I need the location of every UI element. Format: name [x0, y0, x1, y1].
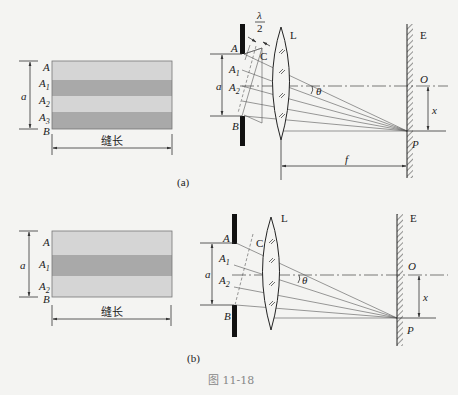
offset-label-x: x	[422, 291, 428, 303]
screen-label: E	[410, 212, 417, 224]
offset-label-x: x	[431, 104, 437, 116]
panel-a-slit-face: a A A1 A2 A3 B 缝长	[19, 61, 172, 155]
center-label-o: O	[408, 260, 416, 272]
zone-a-a1	[52, 231, 172, 255]
zone-a2-a3	[52, 96, 172, 112]
slit-barrier-top	[240, 24, 245, 54]
panel-b-optical-setup: a A A1 A2 B C L θ E O P x	[187, 212, 448, 365]
screen-e	[407, 24, 413, 178]
panel-a-label: (a)	[177, 176, 190, 189]
lens-l	[263, 217, 280, 330]
slit-barrier-bottom	[232, 305, 237, 337]
figure-caption: 图 11-18	[208, 374, 254, 387]
slit-width-label: a	[20, 259, 26, 271]
angle-theta: θ	[302, 274, 308, 286]
zone-label-a3: A3	[38, 111, 50, 126]
diagram-canvas: a A A1 A2 A3 B 缝长 a A A1 A2 B λ 2	[0, 0, 458, 395]
zone-a3-b	[52, 112, 172, 129]
zone-a2-b	[52, 276, 172, 297]
focal-length-label: f	[345, 153, 350, 165]
point-a1: A1	[218, 252, 230, 267]
point-b: B	[224, 310, 231, 322]
wavefront-label-c: C	[260, 50, 267, 62]
slit-barrier-bottom	[240, 116, 245, 146]
panel-a-optical-setup: a A A1 A2 B λ 2 C	[177, 9, 448, 189]
point-a1: A1	[228, 63, 240, 78]
panel-b-slit-face: a A A1 A2 B 缝长	[19, 231, 172, 326]
zone-label-a1: A1	[38, 258, 50, 273]
point-a: A	[230, 42, 238, 54]
point-a: A	[222, 232, 230, 244]
screen-label: E	[420, 29, 427, 41]
zone-a1-a2	[52, 255, 172, 276]
slit-length-label: 缝长	[101, 305, 123, 319]
zone-a-a1	[52, 61, 172, 80]
slit-width-label: a	[216, 80, 222, 92]
zone-a1-a2	[52, 80, 172, 96]
slit-width-label: a	[21, 90, 27, 102]
point-label-p: P	[406, 324, 414, 336]
slit-length-label: 缝长	[101, 134, 123, 148]
edge-label-b: B	[43, 125, 50, 137]
slit-barrier-top	[232, 214, 237, 244]
lens-l	[273, 27, 290, 140]
point-b: B	[232, 120, 239, 132]
point-a2: A2	[228, 81, 240, 96]
half-wavelength-denominator: 2	[257, 22, 263, 34]
half-wavelength-numerator: λ	[256, 9, 262, 21]
lens-label: L	[281, 212, 288, 224]
slit-width-label: a	[205, 268, 211, 280]
zone-label-a2: A2	[38, 94, 50, 109]
edge-label-a: A	[42, 61, 50, 73]
angle-theta: θ	[316, 85, 322, 97]
screen-e	[397, 214, 403, 346]
panel-b-label: (b)	[187, 352, 200, 365]
center-label-o: O	[420, 73, 428, 85]
edge-label-b: B	[43, 293, 50, 305]
zone-label-a1: A1	[38, 77, 50, 92]
wavefront-label-c: C	[256, 237, 263, 249]
point-a2: A2	[218, 274, 230, 289]
edge-label-a: A	[42, 236, 50, 248]
lens-label: L	[290, 29, 297, 41]
wavefront-c	[235, 234, 253, 305]
point-label-p: P	[411, 138, 419, 150]
